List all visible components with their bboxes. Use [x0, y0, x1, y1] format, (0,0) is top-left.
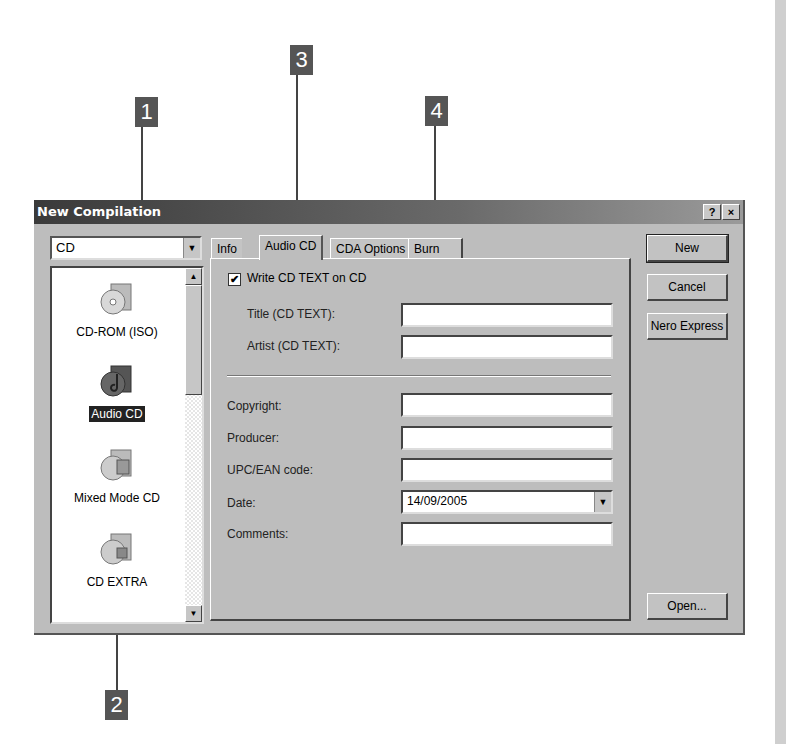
title-label: Title (CD TEXT): — [247, 307, 335, 321]
list-item-mixed-mode-cd[interactable]: Mixed Mode CD — [52, 448, 182, 506]
title-bar: New Compilation ? × — [34, 200, 743, 224]
new-compilation-dialog: New Compilation ? × CD ▼ CD-ROM (ISO) Au… — [34, 200, 745, 635]
write-cd-text-label: Write CD TEXT on CD — [247, 271, 366, 285]
list-item-label: CD-ROM (ISO) — [74, 324, 159, 340]
list-item-label: Mixed Mode CD — [72, 490, 162, 506]
callout-4: 4 — [425, 96, 448, 126]
audio-cd-tab-panel: ✔ Write CD TEXT on CD Title (CD TEXT): A… — [210, 258, 631, 621]
tab-cda-options[interactable]: CDA Options — [330, 238, 412, 259]
upc-ean-input[interactable] — [401, 458, 613, 482]
scroll-down-button[interactable]: ▼ — [185, 605, 202, 622]
date-value: 14/09/2005 — [407, 494, 467, 508]
cd-rom-iso-icon — [99, 282, 135, 318]
mixed-mode-cd-icon — [99, 448, 135, 484]
help-button[interactable]: ? — [703, 204, 721, 220]
nero-express-button[interactable]: Nero Express — [647, 313, 728, 340]
callout-1: 1 — [135, 97, 158, 127]
callout-2: 2 — [105, 690, 128, 720]
new-button[interactable]: New — [647, 235, 728, 262]
copyright-input[interactable] — [401, 393, 613, 417]
page-edge-strip — [775, 0, 786, 744]
tab-info[interactable]: Info — [211, 238, 242, 259]
chevron-down-icon[interactable]: ▼ — [594, 492, 611, 512]
section-divider — [227, 375, 611, 377]
comments-input[interactable] — [401, 522, 613, 546]
list-item-cd-extra[interactable]: CD EXTRA — [52, 532, 182, 590]
producer-label: Producer: — [227, 431, 279, 445]
copyright-label: Copyright: — [227, 399, 282, 413]
artist-label: Artist (CD TEXT): — [247, 339, 340, 353]
open-button[interactable]: Open... — [647, 593, 728, 620]
chevron-down-icon[interactable]: ▼ — [183, 238, 200, 258]
upc-ean-label: UPC/EAN code: — [227, 463, 313, 477]
list-item-audio-cd[interactable]: Audio CD — [52, 364, 182, 422]
scroll-up-button[interactable]: ▲ — [185, 268, 202, 285]
list-item-label: Audio CD — [89, 406, 144, 422]
media-type-combo[interactable]: CD ▼ — [50, 236, 202, 260]
cancel-button[interactable]: Cancel — [647, 274, 728, 301]
write-cd-text-checkbox[interactable]: ✔ — [228, 273, 241, 286]
list-item-label: CD EXTRA — [85, 574, 150, 590]
media-type-value: CD — [56, 240, 75, 255]
list-scrollbar[interactable]: ▲ ▼ — [185, 268, 202, 622]
title-input[interactable] — [401, 303, 613, 327]
date-picker[interactable]: 14/09/2005 ▼ — [401, 490, 613, 514]
scroll-thumb[interactable] — [185, 285, 202, 395]
tab-audio-cd[interactable]: Audio CD — [259, 235, 323, 260]
comments-label: Comments: — [227, 527, 288, 541]
tab-burn[interactable]: Burn — [408, 238, 463, 259]
dialog-title: New Compilation — [37, 204, 161, 219]
artist-input[interactable] — [401, 335, 613, 359]
cd-extra-icon — [99, 532, 135, 568]
audio-cd-icon — [99, 364, 135, 400]
callout-3: 3 — [290, 45, 313, 75]
producer-input[interactable] — [401, 426, 613, 450]
date-label: Date: — [227, 496, 256, 510]
list-item-cd-rom-iso[interactable]: CD-ROM (ISO) — [52, 282, 182, 340]
compilation-type-list[interactable]: CD-ROM (ISO) Audio CD Mixed Mode CD CD E… — [50, 266, 204, 624]
close-button[interactable]: × — [722, 204, 740, 220]
